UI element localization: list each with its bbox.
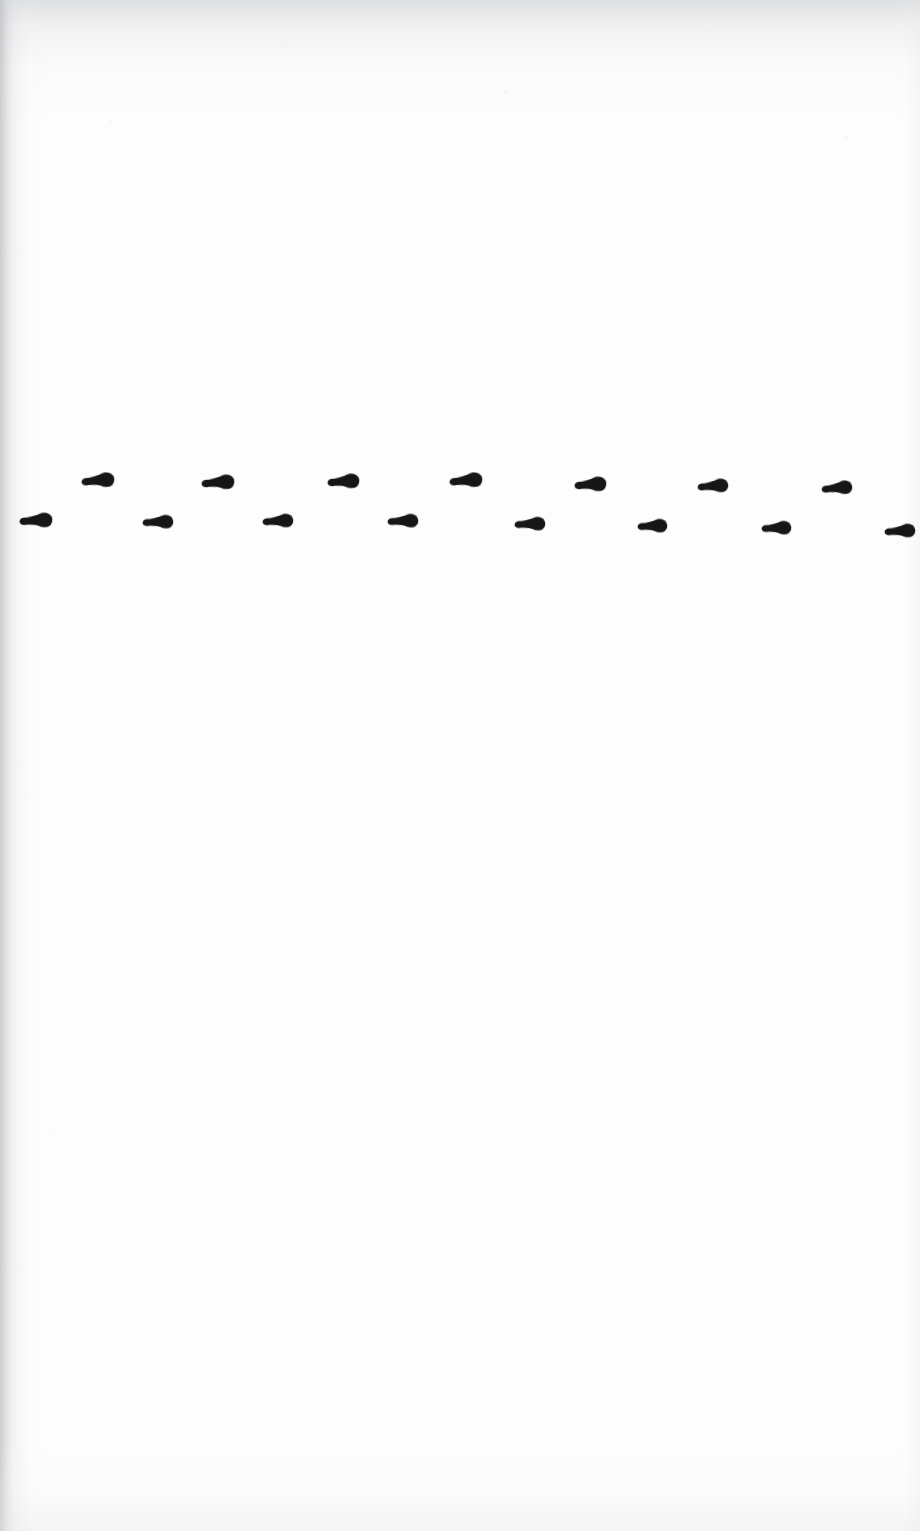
ink-mark — [567, 469, 614, 500]
ink-mark-row — [0, 0, 920, 1531]
ink-mark — [320, 466, 367, 497]
ink-mark — [754, 513, 799, 543]
ink-mark — [380, 506, 426, 536]
ink-mark — [74, 465, 122, 496]
ink-mark — [12, 505, 60, 536]
ink-mark — [690, 471, 736, 501]
ink-mark — [877, 516, 920, 546]
ink-mark — [442, 465, 490, 496]
ink-mark — [814, 473, 860, 503]
ink-mark — [194, 467, 242, 498]
ink-mark — [507, 509, 553, 539]
scanned-page — [0, 0, 920, 1531]
ink-mark — [630, 511, 675, 541]
ink-mark — [135, 507, 181, 537]
ink-mark — [255, 506, 301, 536]
